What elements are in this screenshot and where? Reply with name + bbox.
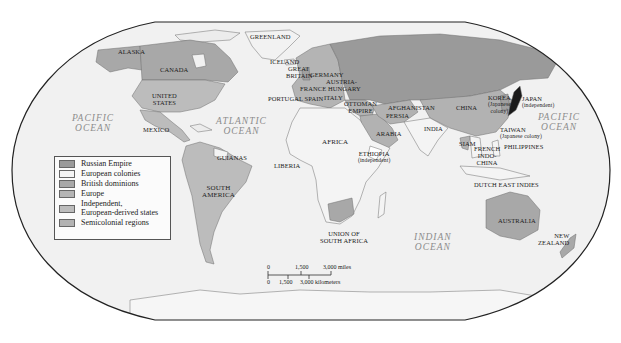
label-ethiopia: ETHIOPIA(independent) <box>358 150 390 164</box>
scale-miles-0: 0 <box>267 264 270 270</box>
label-france-hungary: FRANCE HUNGARY <box>300 85 361 92</box>
label-china: CHINA <box>456 104 477 111</box>
label-line: INDO- <box>474 152 500 159</box>
label-line: UNITED <box>152 92 177 99</box>
ocean-label-pacific-east: PACIFICOCEAN <box>538 112 580 132</box>
label-line: ZEALAND <box>538 239 569 246</box>
legend-item-europe: Europe <box>59 190 166 199</box>
label-line: STATES <box>152 99 177 106</box>
ocean-label-indian: INDIANOCEAN <box>414 232 452 252</box>
label-philippines: PHILIPPINES <box>504 143 543 150</box>
legend-item-independent-states: Independent,European-derived states <box>59 200 166 217</box>
label-persia: PERSIA <box>386 112 409 119</box>
label-line: JAPAN <box>522 95 554 102</box>
label-united-states: UNITEDSTATES <box>152 92 177 106</box>
label-line: colony) <box>488 108 511 115</box>
label-guianas: GUIANAS <box>217 154 247 161</box>
label-dutch-east-indies: DUTCH EAST INDIES <box>474 181 539 188</box>
label-new-zealand: NEWZEALAND <box>538 232 569 246</box>
label-line: EMPIRE <box>344 107 377 114</box>
label-afghanistan: AFGHANISTAN <box>388 104 435 111</box>
label-arabia: ARABIA <box>376 130 402 137</box>
label-alaska: ALASKA <box>118 48 145 55</box>
ocean-line: PACIFIC <box>72 113 114 123</box>
scale-line <box>267 271 347 279</box>
label-french-indochina: FRENCHINDO-CHINA <box>474 145 500 166</box>
legend-label: British dominions <box>81 180 139 189</box>
scale-miles-3000: 3,000 miles <box>323 264 351 270</box>
label-line: UNION OF <box>320 230 368 237</box>
ocean-line: ATLANTIC <box>216 116 267 126</box>
label-line: TAIWAN <box>500 126 542 133</box>
scale-miles-1500: 1,500 <box>295 264 309 270</box>
label-line: ETHIOPIA <box>358 150 390 157</box>
label-line: (independent) <box>358 157 390 164</box>
ocean-line: INDIAN <box>414 232 452 242</box>
label-line: SOUTH AFRICA <box>320 237 368 244</box>
label-line: FRENCH <box>474 145 500 152</box>
legend-item-british-dominions: British dominions <box>59 180 166 189</box>
label-austria: AUSTRIA- <box>326 78 357 85</box>
legend-swatch <box>59 205 75 213</box>
legend-label-line: European-derived states <box>81 208 158 217</box>
label-korea: KOREA(Japanesecolony) <box>488 94 511 115</box>
legend-swatch <box>59 190 75 198</box>
ocean-line: OCEAN <box>72 123 114 133</box>
label-liberia: LIBERIA <box>274 162 300 169</box>
ocean-label-atlantic: ATLANTICOCEAN <box>216 116 267 136</box>
legend-item-russian-empire: Russian Empire <box>59 160 166 169</box>
map-legend: Russian Empire European colonies British… <box>54 156 171 240</box>
legend-swatch <box>59 170 75 178</box>
legend-item-european-colonies: European colonies <box>59 170 166 179</box>
label-portugal-spain: PORTUGAL SPAIN <box>268 95 323 102</box>
label-india: INDIA <box>424 125 443 132</box>
legend-label: Semicolonial regions <box>81 219 149 228</box>
label-south-america: SOUTHAMERICA <box>202 185 235 199</box>
legend-label: Independent,European-derived states <box>81 200 158 217</box>
ocean-line: PACIFIC <box>538 112 580 122</box>
scale-km-1500: 1,500 <box>279 279 293 285</box>
label-line: CHINA <box>474 159 500 166</box>
legend-swatch <box>59 219 75 227</box>
ocean-line: OCEAN <box>216 126 267 136</box>
ocean-label-pacific-west: PACIFICOCEAN <box>72 113 114 133</box>
label-taiwan: TAIWAN(Japanese colony) <box>500 126 542 140</box>
label-line: AMERICA <box>202 192 235 199</box>
label-iceland: ICELAND <box>270 58 299 65</box>
legend-swatch <box>59 160 75 168</box>
label-union-of-south-africa: UNION OFSOUTH AFRICA <box>320 230 368 244</box>
ocean-line: OCEAN <box>414 242 452 252</box>
label-line: (independent) <box>522 102 554 109</box>
scale-km-0: 0 <box>267 279 270 285</box>
label-germany: GERMANY <box>310 71 344 78</box>
scale-km-3000: 3,000 kilometers <box>300 279 340 285</box>
label-japan: JAPAN(independent) <box>522 95 554 109</box>
label-mexico: MEXICO <box>143 126 169 133</box>
legend-label: European colonies <box>81 170 140 179</box>
label-greenland: GREENLAND <box>250 33 291 40</box>
legend-item-semicolonial: Semicolonial regions <box>59 219 166 228</box>
label-australia: AUSTRALIA <box>498 217 536 224</box>
label-great: GREAT <box>288 65 309 72</box>
legend-label: Europe <box>81 190 104 199</box>
label-line: NEW <box>538 232 569 239</box>
label-italy: ITALY <box>324 94 343 101</box>
label-line: OTTOMAN <box>344 100 377 107</box>
label-britain: BRITAIN <box>286 72 313 79</box>
label-line: (Japanese colony) <box>500 133 542 140</box>
label-ottoman-empire: OTTOMANEMPIRE <box>344 100 377 114</box>
label-africa: AFRICA <box>322 139 348 146</box>
scale-bar: 0 1,500 3,000 miles 0 1,500 3,000 kilome… <box>265 264 375 288</box>
legend-label: Russian Empire <box>81 160 132 169</box>
label-line: KOREA <box>488 94 511 101</box>
legend-swatch <box>59 180 75 188</box>
label-canada: CANADA <box>160 66 188 73</box>
label-line: (Japanese <box>488 101 511 108</box>
ocean-line: OCEAN <box>538 122 580 132</box>
